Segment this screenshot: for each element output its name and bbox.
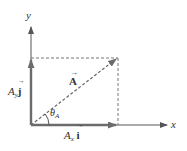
vector-diagram bbox=[0, 0, 187, 151]
angle-label: θA bbox=[50, 108, 59, 120]
vector-a-label: → A bbox=[69, 76, 77, 87]
x-axis-label: x bbox=[171, 119, 176, 130]
unit-arrow-icon: → bbox=[18, 78, 25, 85]
angle-arc bbox=[45, 114, 49, 125]
unit-arrow-icon: → bbox=[77, 122, 84, 129]
x-component-label: Ax →i bbox=[64, 130, 80, 143]
vector-arrow-icon: → bbox=[70, 69, 78, 77]
y-component-label: Ay→j bbox=[8, 86, 22, 99]
y-axis-label: y bbox=[26, 10, 31, 21]
